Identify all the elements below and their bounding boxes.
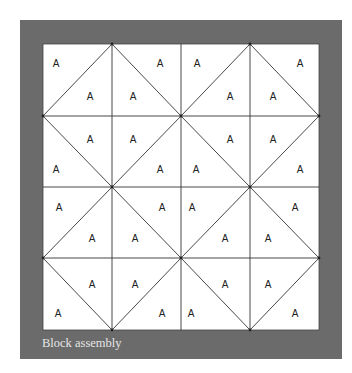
piece-label: A: [292, 308, 299, 319]
piece-label: A: [87, 91, 94, 102]
vertex-dot: [111, 43, 114, 46]
piece-label: A: [270, 91, 277, 102]
vertex-dot: [318, 257, 321, 260]
piece-label: A: [189, 202, 196, 213]
piece-label: A: [265, 233, 272, 244]
piece-label: A: [270, 134, 277, 145]
block-assembly-diagram: AAAAAAAAAAAAAAAAAAAAAAAAAAAAAAAA Block a…: [0, 0, 352, 373]
vertex-dot: [249, 329, 252, 332]
piece-label: A: [292, 202, 299, 213]
piece-label: A: [222, 279, 229, 290]
piece-label: A: [53, 164, 60, 175]
vertex-dot: [42, 115, 45, 118]
piece-label: A: [265, 279, 272, 290]
vertex-dot: [42, 257, 45, 260]
piece-label: A: [89, 233, 96, 244]
vertex-dot: [180, 257, 183, 260]
piece-label: A: [130, 91, 137, 102]
piece-label: A: [132, 279, 139, 290]
vertex-dot: [180, 115, 183, 118]
piece-label: A: [53, 58, 60, 69]
piece-label: A: [159, 308, 166, 319]
figure-caption: Block assembly: [42, 336, 122, 350]
piece-label: A: [132, 233, 139, 244]
piece-label: A: [222, 233, 229, 244]
piece-label: A: [130, 134, 137, 145]
piece-label: A: [227, 91, 234, 102]
piece-label: A: [188, 308, 195, 319]
piece-label: A: [194, 58, 201, 69]
piece-label: A: [157, 58, 164, 69]
piece-label: A: [157, 164, 164, 175]
vertex-dot: [249, 186, 252, 189]
piece-label: A: [87, 134, 94, 145]
piece-label: A: [227, 134, 234, 145]
vertex-dot: [249, 43, 252, 46]
piece-label: A: [159, 202, 166, 213]
piece-label: A: [89, 279, 96, 290]
vertex-dot: [111, 329, 114, 332]
vertex-dot: [111, 186, 114, 189]
piece-label: A: [297, 164, 304, 175]
piece-label: A: [297, 58, 304, 69]
piece-label: A: [55, 308, 62, 319]
piece-label: A: [56, 202, 63, 213]
piece-label: A: [193, 164, 200, 175]
vertex-dot: [318, 115, 321, 118]
